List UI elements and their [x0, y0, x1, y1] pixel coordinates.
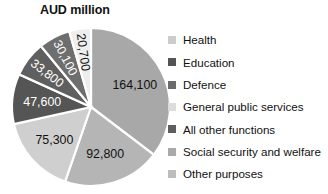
- legend-item-label: Health: [183, 34, 217, 46]
- legend-swatch-icon: [168, 36, 176, 44]
- legend-swatch-icon: [168, 58, 176, 66]
- pie-chart-figure: AUD million 164,10092,80075,30047,60033,…: [0, 0, 328, 194]
- legend-item[interactable]: Social security and welfare: [168, 140, 328, 162]
- legend-item[interactable]: Education: [168, 51, 328, 73]
- legend-item[interactable]: All other functions: [168, 118, 328, 140]
- legend-item[interactable]: Defence: [168, 74, 328, 96]
- legend-swatch-icon: [168, 125, 176, 133]
- legend-item[interactable]: Health: [168, 29, 328, 51]
- legend-item[interactable]: General public services: [168, 96, 328, 118]
- legend-item-label: All other functions: [183, 124, 275, 136]
- legend-item-label: General public services: [183, 101, 304, 113]
- legend-item-label: Social security and welfare: [183, 146, 321, 158]
- pie-svg: 164,10092,80075,30047,60033,80030,10020,…: [0, 14, 172, 194]
- legend-swatch-icon: [168, 148, 176, 156]
- pie-plot-area: 164,10092,80075,30047,60033,80030,10020,…: [0, 14, 172, 194]
- legend-swatch-icon: [168, 170, 176, 178]
- legend-item-label: Education: [183, 57, 235, 69]
- legend-item-label: Other purposes: [183, 168, 263, 180]
- chart-legend: HealthEducationDefenceGeneral public ser…: [168, 29, 328, 185]
- pie-slice-value-label: 164,100: [112, 78, 157, 92]
- pie-slice-value-label: 75,300: [35, 133, 73, 147]
- pie-slice-value-label: 47,600: [23, 95, 61, 109]
- legend-item-label: Defence: [183, 79, 226, 91]
- pie-slice-value-label: 92,800: [86, 147, 124, 161]
- legend-item[interactable]: Other purposes: [168, 163, 328, 185]
- legend-swatch-icon: [168, 81, 176, 89]
- legend-swatch-icon: [168, 103, 176, 111]
